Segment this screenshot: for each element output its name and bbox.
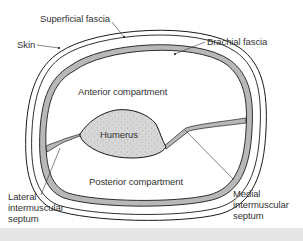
label-brachial-fascia: Brachial fascia <box>207 36 267 47</box>
medial-septum <box>164 118 246 149</box>
label-humerus: Humerus <box>100 129 138 140</box>
label-medial-septum-line1: Medial <box>233 188 260 199</box>
label-superficial-fascia: Superficial fascia <box>40 13 110 24</box>
superficial-fascia-leader <box>112 22 124 37</box>
bottom-strip <box>0 228 303 241</box>
medial-septum-leader <box>185 130 234 180</box>
label-medial-septum-line3: septum <box>233 210 264 221</box>
label-anterior-compartment: Anterior compartment <box>78 86 167 97</box>
label-medial-septum-line2: intermuscular <box>233 199 289 210</box>
label-lateral-septum-line3: septum <box>8 213 39 224</box>
label-lateral-septum-line1: Lateral <box>8 191 36 202</box>
lateral-septum <box>46 134 80 152</box>
label-skin: Skin <box>17 39 35 50</box>
label-posterior-compartment: Posterior compartment <box>89 176 183 187</box>
label-lateral-septum-line2: intermuscular <box>8 202 64 213</box>
skin-leader <box>37 45 59 48</box>
